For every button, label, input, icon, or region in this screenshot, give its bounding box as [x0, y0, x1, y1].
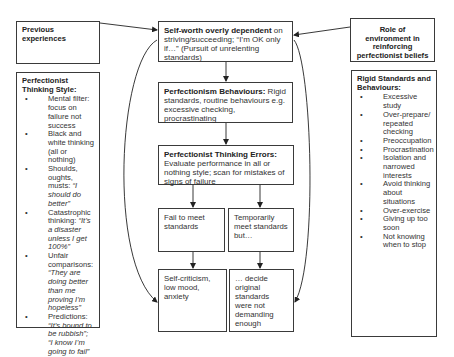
previous-experiences-box: Previous experiences	[16, 21, 100, 64]
behaviours-box: Perfectionism Behaviours: Rigid standard…	[158, 82, 293, 123]
bullet-icon: •	[360, 93, 363, 102]
arrow-environment-to-selfworth	[294, 27, 350, 35]
fail-box: Fail to meet standards	[158, 208, 225, 252]
bullet-icon: •	[25, 209, 28, 218]
arrow-curve-left	[124, 40, 157, 302]
list-item: •Over-prepare/ repeated checking	[357, 111, 431, 137]
self-criticism-box: Self-criticism, low mood, anxiety	[158, 269, 227, 332]
rigid-standards-box: Rigid Standards and Behaviours: •Excessi…	[351, 70, 437, 337]
list-item: •Unfair comparisons: “They are doing bet…	[22, 252, 94, 313]
thinking-style-title: Perfectionist Thinking Style:	[22, 77, 94, 94]
list-item: •Not knowing when to stop	[357, 233, 431, 250]
list-item: •Black and white thinking (all or nothin…	[22, 130, 94, 165]
bullet-icon: •	[25, 95, 28, 104]
arrow-curve-right	[294, 40, 310, 302]
list-item: •Shoulds, oughts, musts: “I should do be…	[22, 165, 94, 209]
list-item: •Mental filter: focus on failure not suc…	[22, 95, 94, 130]
bullet-icon: •	[25, 130, 28, 139]
rigid-standards-title: Rigid Standards and Behaviours:	[357, 75, 431, 92]
arrow-previous-to-selfworth	[100, 23, 157, 30]
previous-experiences-label: Previous experiences	[22, 25, 66, 43]
environment-box: Role of environment in reinforcing perfe…	[350, 18, 435, 62]
list-item: •Giving up too soon	[357, 215, 431, 232]
decide-box: … decide original standards were not dem…	[229, 269, 294, 332]
thinking-style-box: Perfectionist Thinking Style: •Mental fi…	[16, 72, 100, 328]
temp-meet-box: Temporarily meet standards but…	[228, 208, 294, 252]
bullet-icon: •	[360, 154, 363, 163]
list-item: •Catastrophic thinking: “It’s a disaster…	[22, 209, 94, 253]
bullet-icon: •	[25, 165, 28, 174]
bullet-icon: •	[360, 111, 363, 120]
bullet-icon: •	[360, 215, 363, 224]
thinking-style-list: •Mental filter: focus on failure not suc…	[22, 95, 94, 356]
list-item: •Excessive study	[357, 93, 431, 110]
bullet-icon: •	[25, 313, 28, 322]
self-worth-box: Self-worth overly dependent on striving/…	[158, 21, 293, 62]
bullet-icon: •	[360, 233, 363, 242]
rigid-standards-list: •Excessive study •Over-prepare/ repeated…	[357, 93, 431, 250]
thinking-errors-box: Perfectionist Thinking Errors: Evaluate …	[158, 145, 294, 185]
bullet-icon: •	[360, 180, 363, 189]
list-item: •Predictions: “It’s bound to be rubbish”…	[22, 313, 94, 357]
list-item: •Avoid thinking about situations	[357, 180, 431, 206]
list-item: •Isolation and narrowed interests	[357, 154, 431, 180]
bullet-icon: •	[25, 252, 28, 261]
